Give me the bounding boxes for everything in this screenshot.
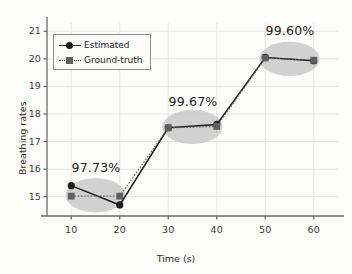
legend-key-square-icon xyxy=(58,55,82,67)
x-tick-label: 30 xyxy=(153,224,183,235)
x-tick-label: 10 xyxy=(56,224,86,235)
legend-item-estimated: Estimated xyxy=(58,38,146,53)
x-tick-label: 40 xyxy=(202,224,232,235)
x-tick-label: 20 xyxy=(105,224,135,235)
y-tick-label: 20 xyxy=(15,53,41,64)
legend-key-circle-icon xyxy=(58,40,82,52)
y-tick-label: 19 xyxy=(15,80,41,91)
y-tick-label: 21 xyxy=(15,25,41,36)
legend: Estimated Ground-truth xyxy=(53,34,151,70)
legend-item-ground-truth: Ground-truth xyxy=(58,53,146,68)
x-tick-label: 50 xyxy=(250,224,280,235)
chart-root: 15161718192021 102030405060 97.73%99.67%… xyxy=(0,0,352,274)
legend-label-estimated: Estimated xyxy=(84,39,129,52)
accuracy-annotation: 97.73% xyxy=(72,160,121,175)
y-axis-title: Breathing rates xyxy=(17,101,28,175)
y-tick-label: 15 xyxy=(15,191,41,202)
accuracy-annotation: 99.67% xyxy=(169,94,218,109)
legend-label-ground-truth: Ground-truth xyxy=(84,54,143,67)
x-tick-label: 60 xyxy=(299,224,329,235)
x-axis-title: Time (s) xyxy=(0,253,352,264)
accuracy-annotation: 99.60% xyxy=(266,23,315,38)
